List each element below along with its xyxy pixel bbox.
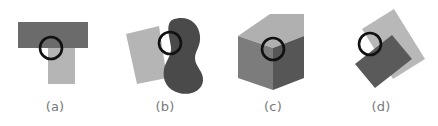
panel-b-label: (b)	[110, 99, 220, 115]
figure-container: (a) (b) (c)	[0, 0, 438, 126]
panel-d: (d)	[326, 0, 436, 126]
horizontal-bar	[18, 22, 88, 48]
panel-b: (b)	[110, 0, 220, 126]
panel-b-artwork	[110, 0, 220, 98]
peanut-blob	[164, 18, 204, 94]
panel-a: (a)	[0, 0, 110, 126]
panel-a-label: (a)	[0, 99, 110, 115]
panel-d-artwork	[326, 0, 436, 98]
panel-d-label: (d)	[326, 99, 436, 115]
panel-a-artwork	[0, 0, 110, 98]
panel-c-artwork	[218, 0, 328, 98]
panel-c: (c)	[218, 0, 328, 126]
panel-c-label: (c)	[218, 99, 328, 115]
tilted-quadrilateral	[126, 26, 167, 84]
